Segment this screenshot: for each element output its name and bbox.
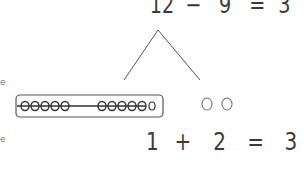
uncrossed-circle xyxy=(149,102,155,110)
left-edge-fragment: e xyxy=(0,77,6,87)
bond-right-branch xyxy=(158,30,200,80)
bottom-result: 3 xyxy=(275,127,304,156)
crossed-circles-group xyxy=(17,102,146,111)
loose-circles xyxy=(202,98,232,110)
bottom-operand-a: 1 xyxy=(142,127,163,156)
bond-left-branch xyxy=(124,30,158,80)
left-edge-fragment: e xyxy=(0,134,6,144)
bottom-equation: 1+2=3 xyxy=(142,127,304,156)
bottom-equals: = xyxy=(236,127,274,156)
bottom-operator: + xyxy=(163,127,203,156)
bottom-operand-b: 2 xyxy=(203,127,237,156)
